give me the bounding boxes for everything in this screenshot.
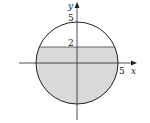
y-axis-label: y [67,1,74,11]
x-axis-label: x [131,66,136,76]
x-tick-5-label: 5 [119,66,125,76]
x-axis-arrow-icon [131,61,137,66]
y-axis-arrow-icon [75,2,80,8]
diagram: y 5 2 5 x [0,0,150,123]
y-tick-2-label: 2 [68,38,74,48]
y-tick-5-label: 5 [68,13,74,23]
